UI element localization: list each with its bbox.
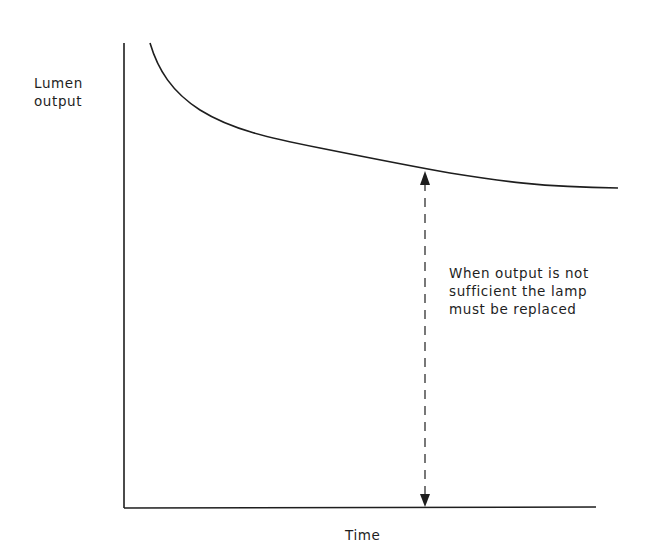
annotation-line-2: sufficient the lamp	[449, 282, 589, 300]
x-axis	[124, 507, 596, 508]
annotation-line-1: When output is not	[449, 264, 589, 282]
lumen-decay-curve	[150, 43, 618, 188]
replacement-annotation: When output is not sufficient the lamp m…	[449, 264, 589, 318]
arrow-head-down-icon	[420, 494, 430, 507]
y-axis-label-line-1: Lumen	[34, 74, 83, 92]
y-axis-label: Lumen output	[34, 74, 83, 110]
arrow-head-up-icon	[420, 171, 430, 185]
x-axis-label: Time	[345, 526, 380, 544]
annotation-line-3: must be replaced	[449, 300, 589, 318]
y-axis-label-line-2: output	[34, 92, 83, 110]
